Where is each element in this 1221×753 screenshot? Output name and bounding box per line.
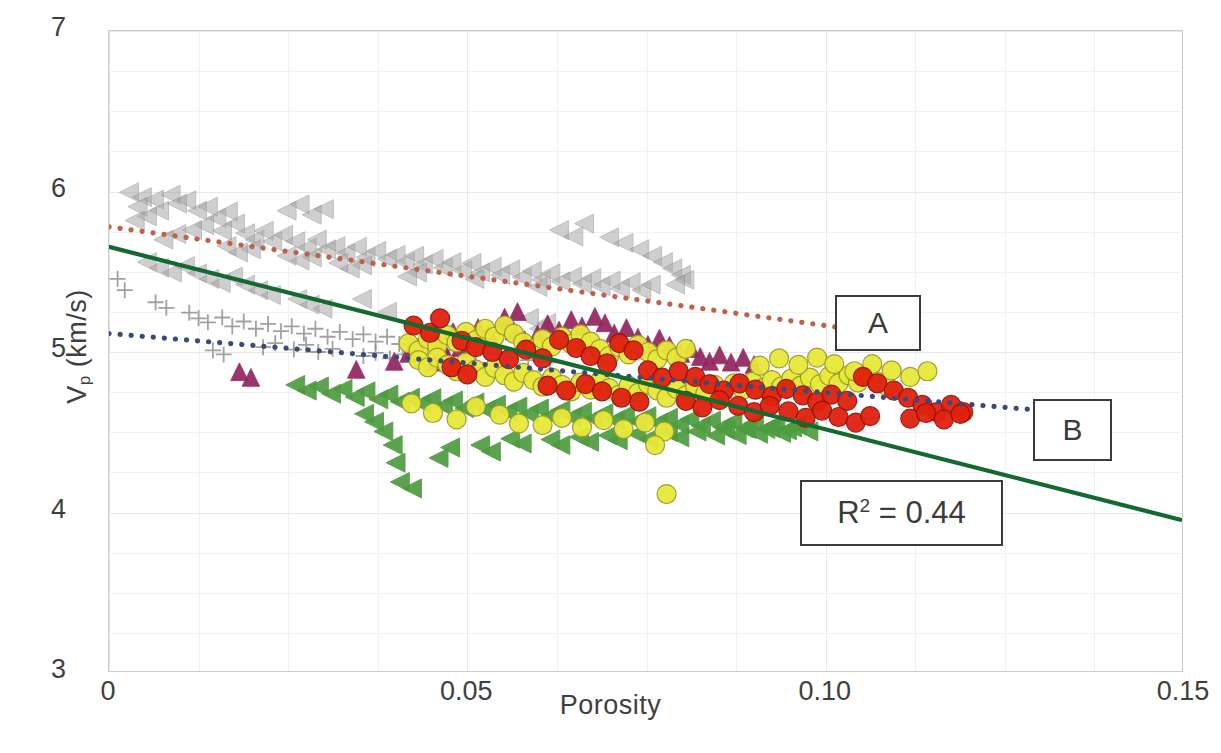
marker-triangle-left bbox=[386, 453, 405, 472]
series-gray-left-triangles bbox=[120, 183, 694, 338]
marker-triangle-left bbox=[600, 228, 619, 247]
marker-circle bbox=[636, 413, 655, 432]
chart-root: Vp (km/s) 7 6 5 4 3 0 0.05 0.10 0.15 Por… bbox=[0, 0, 1221, 753]
marker-circle bbox=[458, 365, 477, 384]
marker-circle bbox=[612, 388, 631, 407]
data-layer bbox=[109, 31, 1183, 672]
marker-circle bbox=[550, 330, 569, 349]
marker-plus bbox=[200, 314, 216, 330]
marker-circle bbox=[861, 407, 880, 426]
y-tick-3: 3 bbox=[6, 654, 66, 685]
marker-plus bbox=[214, 309, 230, 325]
marker-triangle-left bbox=[429, 448, 448, 467]
marker-triangle-up bbox=[509, 303, 527, 321]
marker-triangle-left bbox=[125, 211, 144, 230]
y-tick-5: 5 bbox=[6, 333, 66, 364]
marker-plus bbox=[117, 282, 133, 298]
marker-triangle-left bbox=[352, 290, 371, 309]
marker-circle bbox=[431, 309, 450, 328]
marker-circle bbox=[789, 355, 808, 374]
marker-triangle-up bbox=[347, 360, 365, 378]
marker-circle bbox=[770, 349, 789, 368]
marker-circle bbox=[917, 403, 936, 422]
marker-triangle-left bbox=[217, 237, 236, 256]
marker-circle bbox=[402, 394, 421, 413]
marker-circle bbox=[533, 416, 552, 435]
marker-circle bbox=[657, 485, 676, 504]
marker-circle bbox=[447, 410, 466, 429]
y-tick-4: 4 bbox=[6, 494, 66, 525]
marker-circle bbox=[808, 348, 827, 367]
marker-circle bbox=[918, 362, 937, 381]
marker-circle bbox=[557, 381, 576, 400]
marker-circle bbox=[676, 339, 695, 358]
marker-circle bbox=[624, 341, 643, 360]
marker-circle bbox=[829, 408, 848, 427]
marker-circle bbox=[593, 382, 612, 401]
annotation-box-a[interactable]: A bbox=[835, 295, 921, 351]
marker-circle bbox=[466, 397, 485, 416]
marker-circle bbox=[951, 404, 970, 423]
r2-text: R2 = 0.44 bbox=[837, 495, 966, 531]
marker-circle bbox=[646, 436, 665, 455]
marker-plus bbox=[216, 346, 232, 362]
marker-circle bbox=[614, 420, 633, 439]
marker-circle bbox=[825, 355, 844, 374]
x-axis-label: Porosity bbox=[0, 690, 1221, 721]
y-axis-label: Vp (km/s) bbox=[62, 267, 95, 427]
marker-circle bbox=[750, 356, 769, 375]
marker-triangle-up bbox=[734, 348, 752, 366]
marker-circle bbox=[509, 414, 528, 433]
marker-circle bbox=[901, 367, 920, 386]
marker-circle bbox=[573, 418, 592, 437]
marker-plus bbox=[110, 271, 126, 287]
marker-triangle-up bbox=[711, 346, 729, 364]
marker-triangle-left bbox=[666, 275, 685, 294]
annotation-box-b[interactable]: B bbox=[1033, 399, 1112, 461]
marker-circle bbox=[552, 408, 571, 427]
plot-area bbox=[108, 30, 1183, 672]
marker-triangle-up bbox=[231, 363, 249, 381]
marker-circle bbox=[594, 411, 613, 430]
marker-plus bbox=[368, 345, 384, 361]
y-axis-label-text: Vp (km/s) bbox=[62, 289, 92, 403]
y-tick-7: 7 bbox=[6, 12, 66, 43]
marker-circle bbox=[630, 392, 649, 411]
marker-circle bbox=[538, 376, 557, 395]
marker-circle bbox=[490, 405, 509, 424]
r2-value: 0.44 bbox=[905, 495, 965, 530]
marker-circle bbox=[423, 403, 442, 422]
y-tick-6: 6 bbox=[6, 173, 66, 204]
annotation-box-r2[interactable]: R2 = 0.44 bbox=[800, 480, 1003, 546]
